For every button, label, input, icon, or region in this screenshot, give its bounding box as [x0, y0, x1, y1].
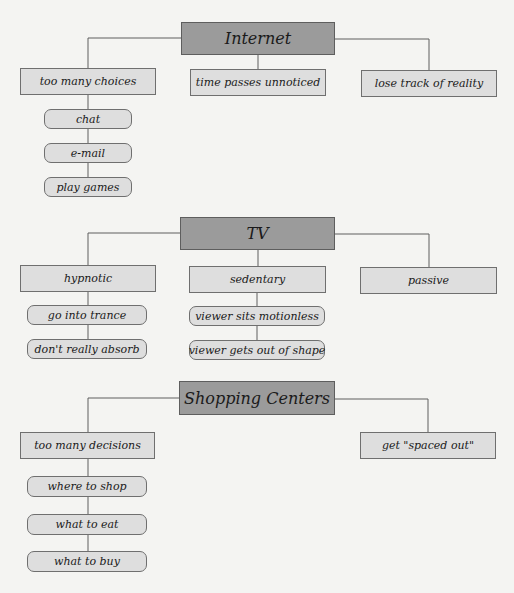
branch-hypnotic: hypnotic [20, 265, 156, 292]
concept-map-diagram: Internet too many choices time passes un… [0, 0, 514, 593]
branch-time-passes-unnoticed: time passes unnoticed [190, 69, 326, 96]
branch-sedentary: sedentary [189, 266, 326, 293]
leaf-go-into-trance: go into trance [27, 305, 147, 325]
section-title-internet: Internet [181, 22, 335, 55]
leaf-viewer-sits-motionless: viewer sits motionless [189, 306, 325, 326]
leaf-what-to-eat: what to eat [27, 514, 147, 535]
leaf-viewer-gets-out-of-shape: viewer gets out of shape [189, 340, 325, 360]
branch-lose-track-of-reality: lose track of reality [361, 70, 497, 97]
branch-too-many-decisions: too many decisions [20, 432, 155, 459]
leaf-chat: chat [44, 109, 132, 129]
leaf-what-to-buy: what to buy [27, 551, 147, 572]
branch-get-spaced-out: get "spaced out" [360, 432, 496, 459]
branch-passive: passive [360, 267, 497, 294]
leaf-e-mail: e-mail [44, 143, 132, 163]
branch-too-many-choices: too many choices [20, 68, 156, 95]
leaf-where-to-shop: where to shop [27, 476, 147, 497]
leaf-play-games: play games [44, 177, 132, 197]
section-title-tv: TV [180, 217, 335, 250]
section-title-shopping-centers: Shopping Centers [179, 381, 335, 415]
leaf-dont-really-absorb: don't really absorb [27, 339, 147, 359]
